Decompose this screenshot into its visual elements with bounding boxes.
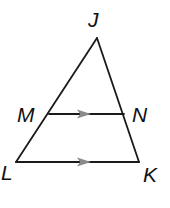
vertex-label-k: K [143,163,158,186]
vertex-label-m: M [17,103,35,126]
side-jl [16,38,97,162]
vertex-label-l: L [1,161,13,184]
vertex-label-n: N [132,103,148,126]
triangle-diagram: J M N L K [0,0,170,208]
side-jk [97,38,139,162]
vertex-label-j: J [87,8,99,31]
